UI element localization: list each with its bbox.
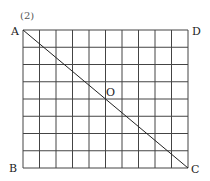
point-label-b: B — [9, 163, 17, 174]
point-label-c: C — [191, 164, 199, 175]
point-label-a: A — [11, 26, 19, 37]
grid-diagram — [0, 0, 210, 181]
point-label-d: D — [192, 26, 201, 37]
point-label-o: O — [106, 87, 115, 98]
